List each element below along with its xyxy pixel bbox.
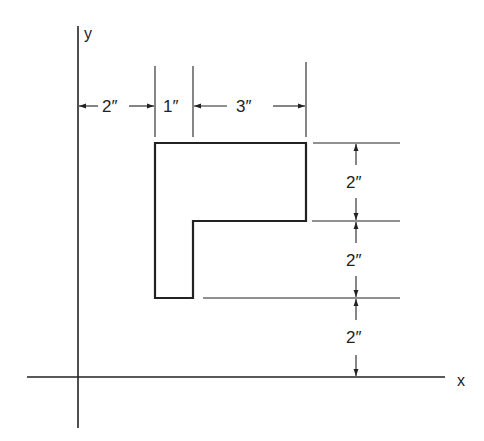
dim-2in-middle: 2″ xyxy=(346,251,361,270)
x-axis-label: x xyxy=(457,372,465,389)
y-axis-label: y xyxy=(84,25,92,42)
dim-1in: 1″ xyxy=(163,97,178,116)
dim-2in-bottom: 2″ xyxy=(346,328,361,347)
l-shape-diagram: y x 2″ 1″ 3″ 2″ 2″ 2″ xyxy=(0,0,484,441)
dim-3in: 3″ xyxy=(236,97,251,116)
dim-2in-top: 2″ xyxy=(346,173,361,192)
axes xyxy=(27,26,445,428)
dim-2in-left: 2″ xyxy=(102,97,117,116)
l-shape xyxy=(155,143,306,298)
